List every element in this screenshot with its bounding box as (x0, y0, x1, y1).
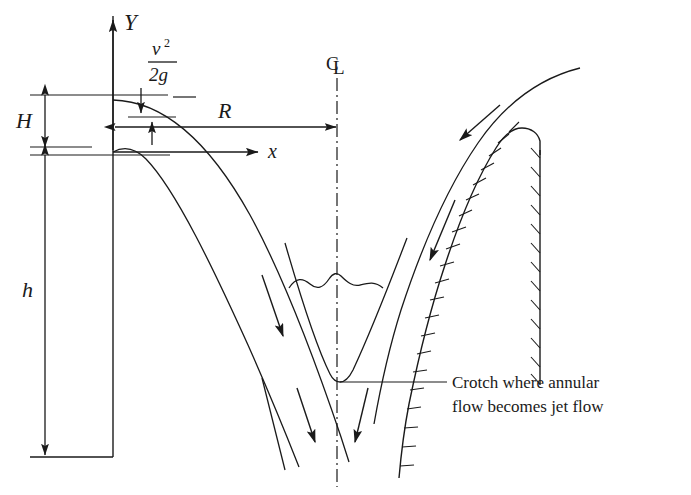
h-head-dimension: H (15, 95, 45, 147)
drop-height-dimension: h (22, 155, 45, 455)
lower-flow-arrow-left (297, 388, 315, 442)
velocity-head-exponent: 2 (164, 36, 170, 50)
left-nappe-outer-curve (113, 100, 349, 462)
crotch-annotation-line2: flow becomes jet flow (452, 397, 604, 416)
x-axis-label: x (267, 140, 277, 162)
right-nappe-outer-curve (374, 68, 580, 424)
y-axis-label: Y (124, 10, 139, 35)
radius-dimension: R (115, 98, 336, 127)
h-head-label: H (15, 108, 33, 133)
crotch-left-wall (285, 243, 340, 382)
reservoir-wall-group (30, 16, 113, 457)
hatched-wall-crest (522, 128, 540, 155)
velocity-head-denominator: 2g (149, 64, 168, 85)
y-axis-group: Y (113, 10, 139, 150)
crotch-annotation: Crotch where annular flow becomes jet fl… (452, 373, 604, 416)
left-flow-arrow (262, 275, 283, 336)
free-surface-wave (289, 274, 383, 288)
drop-height-label: h (22, 277, 33, 302)
radius-label: R (217, 98, 232, 123)
hatched-wall-group (399, 122, 540, 478)
crotch-annotation-line1: Crotch where annular (452, 373, 600, 392)
hatched-wall-curve (399, 128, 522, 478)
right-flow-arrow-mid (430, 200, 455, 260)
crotch-right-wall (340, 238, 407, 382)
hatch-ticks-right-edge (531, 148, 540, 384)
lower-flow-arrow-right (355, 388, 368, 442)
figure-canvas: Y x v 2 2g H h R C L (0, 0, 691, 495)
spillway-figure: Y x v 2 2g H h R C L (0, 0, 691, 495)
x-axis-group: x (113, 140, 277, 162)
crotch-group (285, 238, 447, 382)
velocity-head-numerator: v (152, 38, 161, 59)
left-nappe-inner-curve (113, 149, 299, 467)
velocity-head-dimension: v 2 2g (141, 36, 177, 145)
centerline-symbol-l: L (333, 57, 345, 78)
